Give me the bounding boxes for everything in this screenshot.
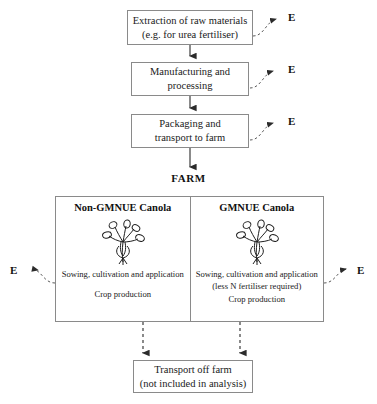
energy-label-farm-left: E [10,264,17,276]
box-output-line1: Transport off farm [154,363,232,377]
panel-right-line2: (less N fertiliser required) [196,280,318,292]
panel-non-gmnue-canola: Non-GMNUE Canola [56,197,190,321]
panel-right-line3: Crop production [196,293,318,305]
box-manufacturing-line1: Manufacturing and [150,65,230,79]
panel-left-title: Non-GMNUE Canola [74,202,171,213]
energy-arrow-farm-right [324,269,346,283]
box-packaging-and-transport-to-farm: Packaging and transport to farm [131,114,249,148]
box-transport-off-farm: Transport off farm (not included in anal… [133,360,253,393]
panel-left-spacer [62,280,184,288]
farm-container: Non-GMNUE Canola [55,196,324,322]
panel-right-title: GMNUE Canola [219,202,294,213]
energy-label-farm-right: E [357,264,364,276]
box-packaging-line2: transport to farm [155,131,226,145]
panel-left-line3: Crop production [62,288,184,300]
panel-left-line1: Sowing, cultivation and application [62,268,184,280]
energy-label-extraction: E [288,11,295,23]
panel-right-line1: Sowing, cultivation and application [196,268,318,280]
box-extraction-of-raw-materials: Extraction of raw materials (e.g. for ur… [127,10,253,45]
box-extraction-line2: (e.g. for urea fertiliser) [142,28,238,42]
canola-plant-icon [97,216,149,266]
box-extraction-line1: Extraction of raw materials [133,14,248,28]
energy-label-packaging: E [288,115,295,127]
energy-arrow-packaging [250,123,273,140]
panel-left-body: Sowing, cultivation and application Crop… [62,268,184,301]
farm-heading: FARM [0,172,377,184]
energy-label-manufacturing: E [288,63,295,75]
energy-arrow-extraction [253,19,276,36]
panel-gmnue-canola: GMNUE Canola [190,197,324,321]
canola-plant-icon [231,216,283,266]
energy-arrow-manufacturing [250,71,273,88]
box-manufacturing-line2: processing [168,79,213,93]
flowchart-diagram: Extraction of raw materials (e.g. for ur… [0,0,377,404]
box-packaging-line1: Packaging and [159,117,221,131]
box-manufacturing-and-processing: Manufacturing and processing [131,62,249,96]
panel-right-body: Sowing, cultivation and application (les… [196,268,318,305]
box-output-line2: (not included in analysis) [140,377,246,391]
energy-arrow-farm-left [33,269,55,283]
